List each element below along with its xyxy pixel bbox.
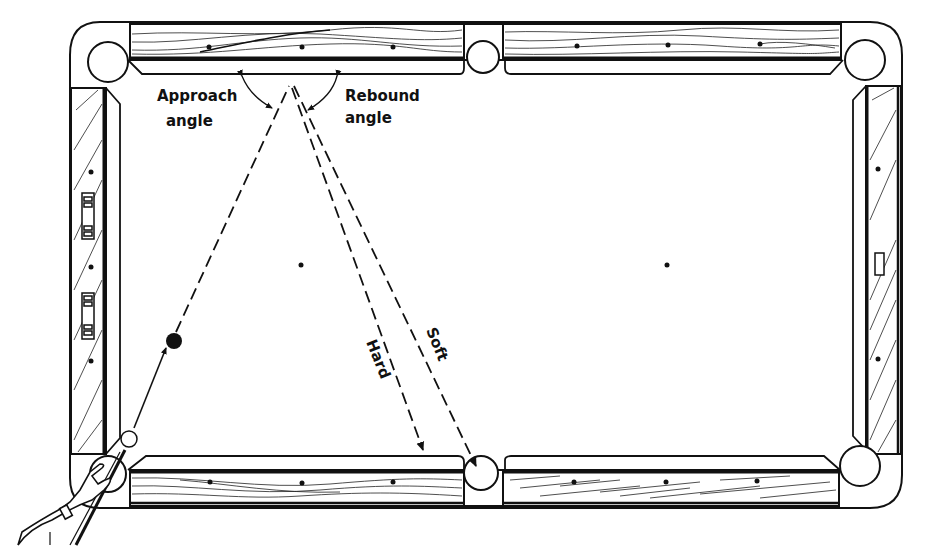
foot-spot <box>665 263 670 268</box>
cue-ball <box>121 431 137 447</box>
diamond-marker <box>89 265 94 270</box>
cushion-top-left <box>128 60 464 74</box>
diamond-marker <box>758 42 763 47</box>
rebound-soft-path <box>294 86 476 466</box>
diamond-marker <box>89 359 94 364</box>
diamond-marker <box>755 479 760 484</box>
object-ball <box>166 333 182 349</box>
rebound-angle-label-line1: Rebound <box>345 87 420 105</box>
diamond-marker <box>207 45 212 50</box>
billiard-diagram: Approach angle Rebound angle Hard Soft <box>0 0 926 560</box>
pocket-top-left <box>72 24 128 86</box>
pocket-top-right <box>845 40 885 80</box>
rail-right <box>866 86 901 454</box>
diamond-marker <box>876 357 881 362</box>
head-spot <box>299 263 304 268</box>
score-marker <box>875 253 884 275</box>
diamond-marker <box>575 44 580 49</box>
diamond-marker <box>876 167 881 172</box>
pocket-top-middle <box>464 24 503 73</box>
rail-top-right <box>503 24 841 60</box>
rail-bottom-left <box>130 470 464 506</box>
rebound-angle-label-line2: angle <box>345 109 392 127</box>
rail-left <box>71 88 106 454</box>
approach-angle-arc <box>242 76 272 108</box>
shot-paths <box>134 76 476 466</box>
diamond-marker <box>664 480 669 485</box>
cushion-bottom-left <box>128 456 464 470</box>
pocket-bottom-middle <box>464 456 503 506</box>
diamond-marker <box>300 481 305 486</box>
diamond-marker <box>300 45 305 50</box>
cue-ball-path <box>134 348 166 428</box>
cushion-left <box>106 88 120 454</box>
pocket-bottom-right <box>840 446 880 486</box>
soft-label: Soft <box>422 325 452 364</box>
diamond-marker <box>391 45 396 50</box>
rail-bottom-right <box>503 470 839 506</box>
diamond-marker <box>391 480 396 485</box>
rail-top-left <box>130 24 464 60</box>
cushion-right <box>853 86 866 450</box>
diamond-marker <box>666 43 671 48</box>
approach-angle-label-line2: angle <box>166 112 213 130</box>
diamond-marker <box>89 170 94 175</box>
rebound-angle-arc <box>308 76 337 110</box>
diamond-marker <box>208 480 213 485</box>
rebound-hard-path <box>292 88 423 450</box>
cushion-top-right <box>505 60 843 74</box>
approach-angle-label-line1: Approach <box>157 87 237 105</box>
cushion-bottom-right <box>505 456 840 470</box>
diamond-marker <box>572 480 577 485</box>
